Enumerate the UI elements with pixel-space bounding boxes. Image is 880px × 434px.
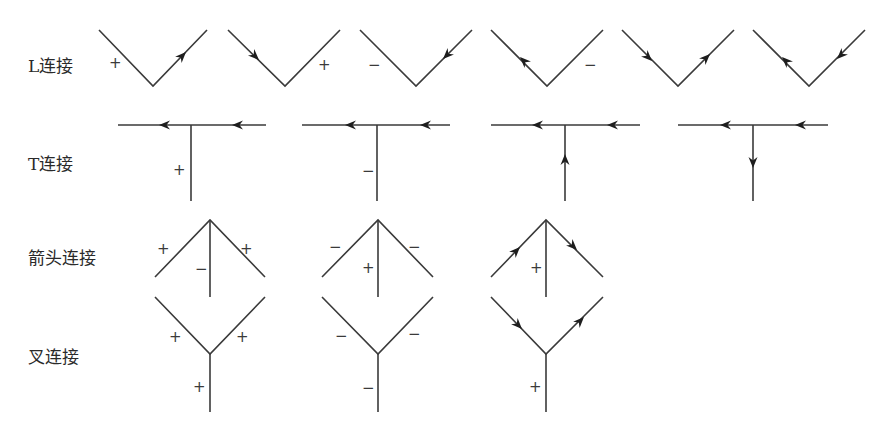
arrow-icon [779, 54, 793, 68]
minus-sign: − [584, 56, 597, 74]
l-junction-3: − [360, 30, 472, 86]
fork-junction-1: + + + [155, 297, 265, 412]
minus-sign: − [408, 238, 421, 256]
arrow-junction-1: + + − [155, 220, 265, 297]
minus-sign: − [335, 327, 348, 345]
plus-sign: + [529, 378, 542, 396]
minus-sign: − [408, 325, 421, 343]
t-junction-1: + [118, 121, 266, 202]
plus-sign: + [109, 54, 122, 72]
plus-sign: + [530, 259, 543, 277]
minus-sign: − [368, 56, 381, 74]
plus-sign: + [318, 56, 331, 74]
plus-sign: + [240, 240, 253, 258]
l-junction-5 [622, 30, 734, 86]
l-junction-4: − [491, 30, 603, 86]
minus-sign: − [362, 379, 375, 397]
plus-sign: + [173, 161, 186, 179]
plus-sign: + [236, 328, 249, 346]
t-junction-4 [678, 121, 828, 202]
l-junction-1: + [99, 30, 207, 86]
plus-sign: + [169, 328, 182, 346]
l-junction-2: + [228, 30, 340, 86]
junction-diagram: + + − − + − [0, 0, 880, 434]
t-junction-3 [491, 121, 640, 202]
minus-sign: − [195, 260, 208, 278]
l-junction-6 [753, 30, 865, 86]
arrow-icon [517, 54, 531, 68]
arrow-junction-2: − − + [322, 220, 433, 297]
plus-sign: + [362, 259, 375, 277]
plus-sign: + [193, 378, 206, 396]
plus-sign: + [157, 240, 170, 258]
fork-junction-2: − − − [322, 297, 433, 412]
t-junction-2: − [302, 121, 450, 202]
arrow-junction-3: + [491, 220, 603, 297]
minus-sign: − [362, 162, 375, 180]
minus-sign: − [329, 238, 342, 256]
fork-junction-3: + [491, 297, 603, 412]
